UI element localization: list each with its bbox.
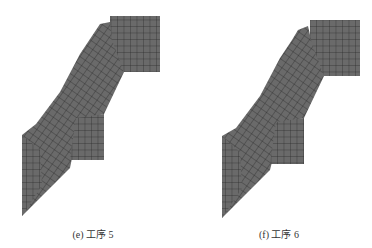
caption-e: (e) 工序 5 [0, 226, 186, 241]
caption-f: (f) 工序 6 [186, 226, 372, 241]
figure-e: (e) 工序 5 [0, 0, 186, 248]
figure-f: (f) 工序 6 [186, 0, 372, 248]
mesh-plot-e [0, 0, 186, 248]
mesh-plot-f [186, 0, 372, 248]
